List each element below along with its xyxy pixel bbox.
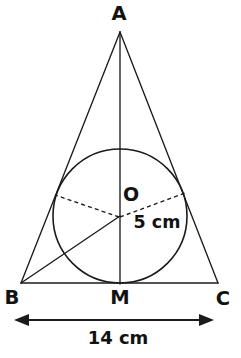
dimension-arrow-left-icon <box>14 314 29 326</box>
label-base-measure: 14 cm <box>88 327 149 348</box>
triangle-side-ab <box>21 32 120 283</box>
label-radius-measure: 5 cm <box>134 212 181 232</box>
label-vertex-a: A <box>111 2 126 25</box>
geometry-diagram: A B C M O 5 cm 14 cm <box>0 0 241 358</box>
triangle-side-ac <box>120 32 218 283</box>
label-vertex-b: B <box>5 286 20 309</box>
label-point-m: M <box>110 286 129 309</box>
geometry-figure-svg: A B C M O 5 cm 14 cm <box>0 0 241 358</box>
segment-bo <box>21 216 120 283</box>
label-centre-o: O <box>123 183 139 205</box>
label-vertex-c: C <box>216 287 230 310</box>
dimension-arrow-right-icon <box>199 314 214 326</box>
radius-to-left-tangent <box>55 195 119 217</box>
